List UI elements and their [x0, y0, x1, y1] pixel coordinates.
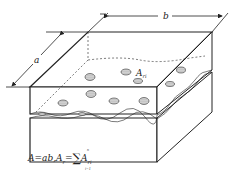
summation-upper-limit: n — [87, 147, 89, 152]
label-b: b — [163, 11, 169, 21]
formula-term-sub: ri — [88, 159, 92, 165]
contact-spot — [139, 98, 149, 105]
summation-symbol: ∑ — [72, 151, 81, 165]
contact-spot — [177, 67, 186, 73]
formula-lhs: A=ab, — [28, 153, 56, 163]
label-a: a — [34, 55, 39, 65]
contact-spot — [134, 79, 143, 84]
contact-spot — [109, 98, 119, 104]
contact-spot — [39, 113, 46, 116]
area-formula: A=ab,Ar=∑Ari — [28, 150, 92, 165]
contact-spot — [79, 113, 86, 116]
contact-spot — [58, 100, 68, 106]
contact-spot — [121, 69, 131, 75]
dimension-b — [88, 13, 228, 32]
contact-spot — [166, 82, 175, 87]
contact-spot — [86, 91, 96, 98]
contact-spot — [85, 74, 95, 81]
summation-lower-limit: i=1 — [85, 166, 91, 171]
